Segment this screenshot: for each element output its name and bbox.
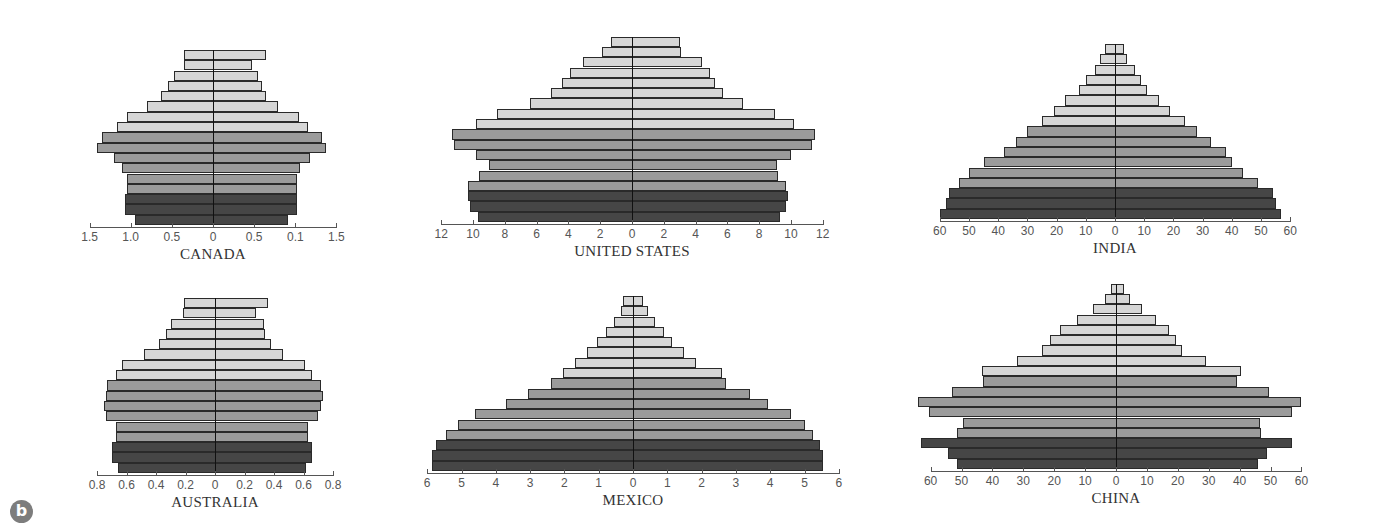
- axis-tick: [90, 223, 91, 228]
- panel-label-badge: b: [10, 500, 33, 523]
- axis-tick-label: 0.5: [246, 230, 263, 244]
- bar-right: [213, 81, 262, 91]
- axis-tick: [333, 471, 334, 476]
- center-axis-line: [213, 50, 214, 225]
- axis-tick: [759, 220, 760, 225]
- bar-left: [432, 461, 634, 471]
- axis-tick: [962, 467, 963, 472]
- axis-tick-label: 60: [1284, 224, 1297, 238]
- bar-right: [633, 440, 820, 450]
- bar-right: [1115, 65, 1135, 75]
- bar-right: [632, 129, 815, 139]
- axis-tick-label: 40: [1233, 474, 1246, 488]
- axis-tick: [172, 223, 173, 228]
- axis-tick-label: 10: [466, 227, 479, 241]
- bar-left: [159, 339, 216, 349]
- bar-left: [570, 68, 633, 78]
- axis-tick-label: 1: [664, 476, 671, 490]
- axis-tick: [667, 469, 668, 474]
- bar-right: [633, 337, 672, 347]
- bar-left: [184, 60, 214, 70]
- axis-tick: [969, 217, 970, 222]
- bar-right: [1115, 85, 1147, 95]
- bar-left: [106, 391, 216, 401]
- bar-right: [213, 101, 278, 111]
- bar-left: [135, 215, 214, 225]
- bar-right: [213, 91, 266, 101]
- bar-right: [632, 98, 743, 108]
- axis-tick-label: 5: [458, 476, 465, 490]
- bar-left: [489, 160, 633, 170]
- bar-right: [1116, 397, 1301, 407]
- bar-right: [215, 422, 308, 432]
- bar-right: [632, 119, 794, 129]
- axis-tick: [1290, 217, 1291, 222]
- axis-tick: [998, 217, 999, 222]
- bar-right: [1115, 198, 1276, 208]
- axis-tick-label: 12: [816, 227, 829, 241]
- axis-tick: [336, 223, 337, 228]
- bar-right: [633, 409, 791, 419]
- axis-tick-label: 30: [1196, 224, 1209, 238]
- axis-tick-label: 50: [1254, 224, 1267, 238]
- bar-right: [1115, 106, 1170, 116]
- axis-tick: [537, 220, 538, 225]
- axis-tick: [274, 471, 275, 476]
- axis-tick: [213, 223, 214, 228]
- bar-right: [1116, 345, 1182, 355]
- axis-tick-label: 0: [212, 478, 219, 492]
- axis-tick: [473, 220, 474, 225]
- axis-tick-label: 8: [756, 227, 763, 241]
- bar-left: [1054, 106, 1116, 116]
- bar-right: [1116, 428, 1261, 438]
- bar-right: [633, 450, 823, 460]
- bar-left: [184, 298, 216, 308]
- axis-tick-label: 50: [1264, 474, 1277, 488]
- axis-tick: [805, 469, 806, 474]
- bar-left: [575, 358, 634, 368]
- axis-tick: [599, 469, 600, 474]
- bar-right: [632, 160, 777, 170]
- bar-left: [952, 387, 1117, 397]
- bar-left: [969, 168, 1116, 178]
- bar-right: [215, 463, 306, 473]
- bar-left: [106, 411, 216, 421]
- bar-left: [97, 143, 214, 153]
- axis-tick-label: 1.0: [122, 230, 139, 244]
- bar-left: [983, 376, 1117, 386]
- bar-left: [183, 308, 216, 318]
- bar-right: [1115, 116, 1185, 126]
- axis-tick-label: 3: [527, 476, 534, 490]
- axis-tick: [1240, 467, 1241, 472]
- bar-right: [632, 68, 710, 78]
- axis-tick-label: 20: [1171, 474, 1184, 488]
- axis-tick-label: 10: [1078, 474, 1091, 488]
- bar-right: [633, 317, 655, 327]
- axis-tick: [1115, 217, 1116, 222]
- axis-tick: [215, 471, 216, 476]
- bar-left: [112, 442, 216, 452]
- axis-tick-label: 60: [924, 474, 937, 488]
- bar-right: [215, 349, 283, 359]
- bar-left: [476, 150, 633, 160]
- bar-right: [1115, 54, 1127, 64]
- bar-right: [215, 319, 264, 329]
- bar-left: [918, 397, 1117, 407]
- bar-left: [470, 201, 633, 211]
- axis-tick-label: 6: [724, 227, 731, 241]
- bar-left: [127, 174, 214, 184]
- bar-left: [117, 122, 214, 132]
- bar-right: [215, 452, 312, 462]
- bar-left: [528, 389, 634, 399]
- bar-left: [602, 47, 633, 57]
- bar-left: [982, 366, 1117, 376]
- bar-left: [116, 422, 216, 432]
- bar-left: [1016, 137, 1116, 147]
- bar-left: [963, 418, 1117, 428]
- bar-right: [215, 380, 321, 390]
- bar-left: [984, 157, 1116, 167]
- bar-right: [213, 194, 297, 204]
- axis-tick: [97, 471, 98, 476]
- axis-tick-label: 4: [565, 227, 572, 241]
- center-axis-line: [633, 296, 634, 471]
